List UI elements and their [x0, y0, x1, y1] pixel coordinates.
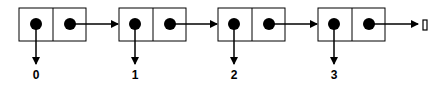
cons-cell-3 [318, 8, 418, 64]
cons-cell-2 [218, 8, 317, 64]
linked-list-diagram [0, 0, 445, 90]
car-value-label-3: 3 [331, 68, 338, 82]
empty-list-terminator [423, 20, 427, 30]
cons-cell-0 [19, 8, 118, 64]
cons-cell-1 [119, 8, 217, 64]
car-value-label-1: 1 [132, 68, 139, 82]
car-value-label-2: 2 [231, 68, 238, 82]
car-value-label-0: 0 [33, 68, 40, 82]
